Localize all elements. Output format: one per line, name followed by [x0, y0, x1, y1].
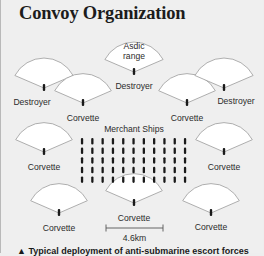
- merchant-ship-icon: [81, 148, 83, 155]
- corvette-ship-icon: [58, 209, 60, 216]
- merchant-ship-icon: [153, 157, 155, 164]
- corvette-bottom-left: [31, 184, 88, 216]
- corvette-ship-icon: [210, 209, 212, 216]
- asdic-range-label: range: [123, 51, 145, 61]
- merchant-ship-icon: [132, 176, 134, 183]
- corvette-label: Corvette: [67, 113, 100, 123]
- merchant-ship-icon: [91, 157, 93, 164]
- merchant-ship-icon: [184, 176, 186, 183]
- merchant-ship-icon: [163, 176, 165, 183]
- merchant-ship-icon: [91, 148, 93, 155]
- merchant-ship-icon: [112, 138, 114, 145]
- corvette-label: Corvette: [118, 213, 151, 223]
- corvette-ship-icon: [133, 199, 135, 206]
- merchant-ship-icon: [112, 176, 114, 183]
- merchant-ship-icon: [81, 138, 83, 145]
- merchant-ship-icon: [153, 138, 155, 145]
- merchant-ship-icon: [184, 157, 186, 164]
- merchant-ship-icon: [132, 167, 134, 174]
- corvette-label: Corvette: [195, 222, 228, 232]
- merchant-ship-icon: [174, 157, 176, 164]
- merchant-ship-icon: [184, 148, 186, 155]
- destroyer-ship-icon: [43, 84, 45, 91]
- merchant-ship-icon: [91, 167, 93, 174]
- asdic-range-label: Asdic: [123, 41, 145, 51]
- merchant-ship-icon: [153, 176, 155, 183]
- merchant-ship-icon: [112, 148, 114, 155]
- merchant-ship-icon: [122, 148, 124, 155]
- merchant-ships-label: Merchant Ships: [104, 124, 164, 134]
- merchant-ship-icon: [112, 157, 114, 164]
- merchant-ship-icon: [153, 167, 155, 174]
- corvette-mid-left: [16, 123, 73, 155]
- merchant-ship-icon: [143, 138, 145, 145]
- corvette-mid-right: [196, 123, 253, 155]
- corvette-ship-icon: [43, 148, 45, 155]
- destroyer-label: Destroyer: [13, 97, 50, 107]
- merchant-ship-icon: [163, 148, 165, 155]
- merchant-ship-icon: [163, 138, 165, 145]
- merchant-ship-icon: [132, 148, 134, 155]
- asdic-range-fan: [16, 123, 73, 152]
- merchant-ship-icon: [91, 138, 93, 145]
- merchant-ship-icon: [112, 167, 114, 174]
- asdic-range-fan: [196, 123, 253, 152]
- merchant-ship-icon: [102, 157, 104, 164]
- merchant-ship-icon: [102, 148, 104, 155]
- corvette-ship-icon: [82, 99, 84, 106]
- corvette-label: Corvette: [208, 162, 241, 172]
- merchant-ship-icon: [102, 176, 104, 183]
- merchant-ship-icon: [163, 157, 165, 164]
- merchant-ship-icon: [143, 148, 145, 155]
- merchant-ship-icon: [122, 176, 124, 183]
- merchant-ship-icon: [184, 138, 186, 145]
- destroyer-ship-icon: [133, 68, 135, 75]
- merchant-ship-icon: [143, 157, 145, 164]
- merchant-ship-icon: [122, 157, 124, 164]
- merchant-ship-icon: [81, 176, 83, 183]
- merchant-ship-icon: [143, 167, 145, 174]
- destroyer-ship-icon: [223, 84, 225, 91]
- merchant-ship-icon: [102, 167, 104, 174]
- merchant-ship-icon: [81, 157, 83, 164]
- scale-bar: 4.6km: [106, 225, 163, 244]
- destroyer-label: Destroyer: [115, 81, 152, 91]
- corvette-label: Corvette: [43, 223, 76, 233]
- merchant-ship-icon: [102, 138, 104, 145]
- scale-label: 4.6km: [123, 233, 146, 243]
- asdic-range-fan: [31, 184, 88, 213]
- asdic-range-fan: [183, 184, 240, 213]
- corvette-label: Corvette: [28, 162, 61, 172]
- corvette-bottom-right: [183, 184, 240, 216]
- merchant-ship-icon: [122, 167, 124, 174]
- merchant-ship-icon: [174, 148, 176, 155]
- merchant-ship-icon: [81, 167, 83, 174]
- merchant-ship-icon: [132, 138, 134, 145]
- corvette-ship-icon: [186, 99, 188, 106]
- merchant-ship-icon: [122, 138, 124, 145]
- merchant-ship-icon: [174, 138, 176, 145]
- merchant-ship-icon: [174, 176, 176, 183]
- figure-caption: ▲ Typical deployment of anti-submarine e…: [17, 246, 249, 256]
- convoy-diagram: AsdicrangeDestroyerDestroyerCorvetteCorv…: [1, 0, 264, 253]
- merchant-ship-icon: [91, 176, 93, 183]
- merchant-ship-icon: [174, 167, 176, 174]
- merchant-ship-icon: [163, 167, 165, 174]
- merchant-ship-icon: [143, 176, 145, 183]
- corvette-label: Corvette: [171, 113, 204, 123]
- merchant-ship-icon: [153, 148, 155, 155]
- corvette-ship-icon: [223, 148, 225, 155]
- merchant-ship-icon: [184, 167, 186, 174]
- merchant-ship-icon: [132, 157, 134, 164]
- destroyer-label: Destroyer: [217, 96, 254, 106]
